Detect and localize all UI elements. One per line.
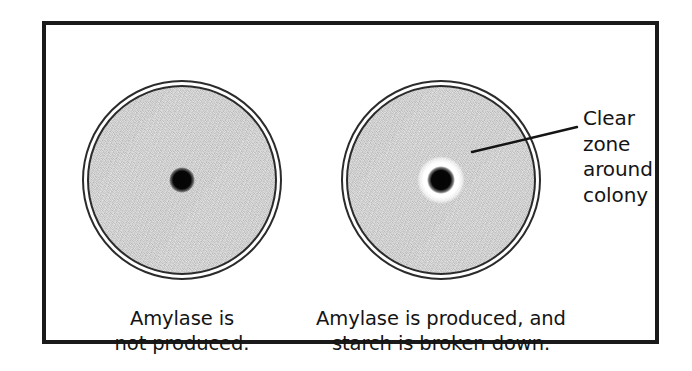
callout-line: Clear [583,106,688,132]
callout-label-clear-zone: Clear zone around colony [583,106,688,208]
caption-no-amylase: Amylase is not produced. [72,306,292,356]
figure-frame: Amylase is not produced. Amylase is prod… [42,21,659,344]
petri-dish-amylase-positive [341,80,541,280]
callout-line: around [583,157,688,183]
amylase-starch-agar-figure: Amylase is not produced. Amylase is prod… [0,0,692,371]
caption-amylase-positive: Amylase is produced, and starch is broke… [304,306,578,356]
bacterial-colony [169,167,195,193]
caption-line: starch is broken down. [304,331,578,356]
caption-line: not produced. [72,331,292,356]
bacterial-colony [427,166,455,194]
petri-dish-no-amylase [82,80,282,280]
callout-line: colony [583,183,688,209]
caption-line: Amylase is [72,306,292,331]
callout-line: zone [583,132,688,158]
caption-line: Amylase is produced, and [304,306,578,331]
